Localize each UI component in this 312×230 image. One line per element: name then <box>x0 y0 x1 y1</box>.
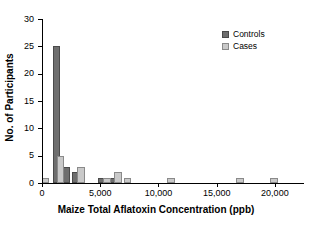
y-tick-label: 0 <box>4 179 34 188</box>
bar-cases <box>57 156 65 183</box>
legend-item-controls: Controls <box>222 28 265 40</box>
bar-cases <box>77 167 85 183</box>
legend-label-controls: Controls <box>233 28 265 40</box>
x-tick-label: 0 <box>39 189 44 198</box>
plot-area: 051015202530 05,00010,00015,00020,000 <box>42 19 304 183</box>
legend-swatch-controls-icon <box>222 31 229 38</box>
chart-legend: Controls Cases <box>222 28 265 52</box>
x-tick-label: 5,000 <box>89 189 112 198</box>
x-axis-line <box>42 183 304 184</box>
x-axis-title: Maize Total Aflatoxin Concentration (ppb… <box>0 204 312 215</box>
x-tick-label: 15,000 <box>203 189 231 198</box>
x-tick-label: 10,000 <box>145 189 173 198</box>
y-axis-title: No. of Participants <box>4 23 15 173</box>
chart-figure: 051015202530 05,00010,00015,00020,000 No… <box>0 0 312 230</box>
y-axis-line <box>42 19 43 183</box>
legend-item-cases: Cases <box>222 40 265 52</box>
bar-cases <box>114 172 122 183</box>
legend-swatch-cases-icon <box>222 43 229 50</box>
x-tick-label: 20,000 <box>261 189 289 198</box>
legend-label-cases: Cases <box>233 40 257 52</box>
